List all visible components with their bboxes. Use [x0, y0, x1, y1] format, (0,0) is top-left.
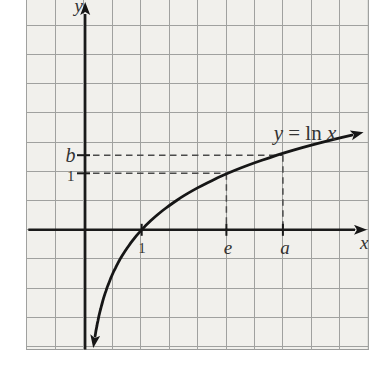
curve-equation-label: y = ln x	[272, 121, 337, 145]
y-tick-label-1: 1	[67, 168, 75, 184]
curve-equation-rhs: x	[326, 121, 337, 145]
y-axis-label: y	[73, 0, 84, 16]
curve-equation-mid: = ln	[283, 121, 327, 145]
x-tick-label-e: e	[224, 237, 232, 258]
y-tick-label-b: b	[66, 144, 76, 166]
x-tick-label-a: a	[280, 237, 290, 258]
ln-function-graph: y x y = ln x 1 e a b 1	[0, 0, 388, 368]
x-tick-label-1: 1	[138, 240, 146, 256]
x-axis-label: x	[359, 232, 369, 253]
curve-equation-lhs: y	[272, 121, 284, 145]
figure-canvas: y x y = ln x 1 e a b 1	[0, 0, 388, 368]
